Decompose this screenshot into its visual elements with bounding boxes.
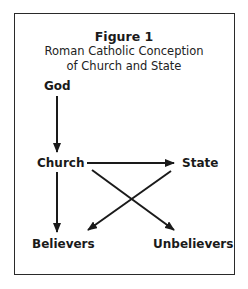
arrow-state-to-believers (88, 171, 171, 230)
diagram-arrows (0, 0, 248, 289)
arrow-church-to-unbelievers (92, 170, 174, 230)
